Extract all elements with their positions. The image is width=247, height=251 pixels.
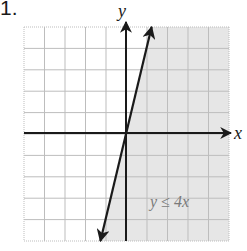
y-axis-label: y xyxy=(116,1,126,21)
x-axis-label: x xyxy=(233,123,242,143)
inequality-graph: y x y ≤ 4x xyxy=(0,0,247,251)
inequality-label: y ≤ 4x xyxy=(148,193,189,211)
